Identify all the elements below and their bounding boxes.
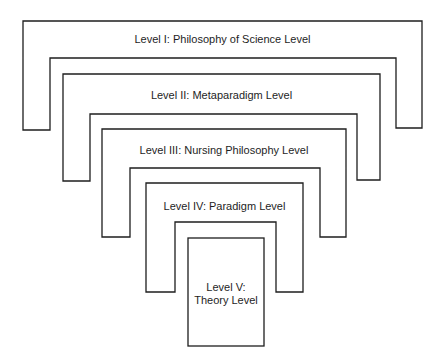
level-1-label: Level I: Philosophy of Science Level (23, 33, 422, 46)
level-5-label-line2: Theory Level (188, 294, 264, 307)
level-2-label: Level II: Metaparadigm Level (63, 89, 380, 102)
level-3-label: Level III: Nursing Philosophy Level (102, 144, 346, 157)
level-4-label: Level IV: Paradigm Level (146, 200, 303, 213)
level-5-label-line1: Level V: (188, 281, 264, 294)
